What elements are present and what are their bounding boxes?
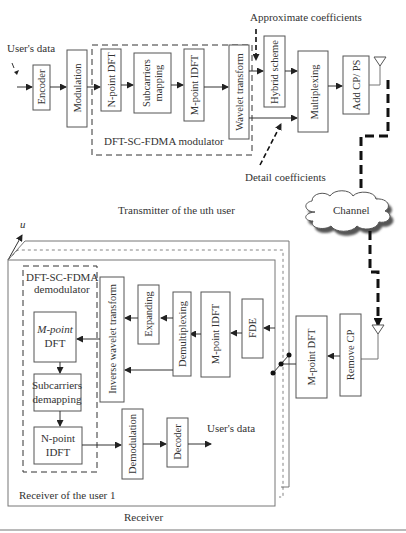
svg-text:N-point DFT: N-point DFT	[106, 52, 117, 108]
rx-m-point-dft-block: M-point DFT	[34, 312, 76, 362]
svg-text:IDFT: IDFT	[46, 446, 71, 458]
svg-text:Encoder: Encoder	[36, 69, 47, 104]
tx-modulator-label: DFT-SC-FDMA modulator	[104, 135, 224, 147]
rx-demodulation-block: Demodulation	[122, 409, 143, 479]
rx-n-point-idft-block: N-point IDFT	[34, 427, 82, 464]
rx-inverse-wavelet-block: Inverse wavelet transform	[100, 277, 124, 402]
rx-demodulator-label-2: demodulator	[34, 283, 90, 295]
svg-text:Inverse wavelet transform: Inverse wavelet transform	[107, 284, 118, 394]
tx-modulation-block: Modulation	[67, 50, 87, 127]
sc-fdma-wavelet-diagram: User's data Encoder Modulation DFT-SC-FD…	[0, 0, 406, 533]
rx-m-point-dft-outer-block: M-point DFT	[296, 316, 327, 398]
rx-antenna-icon	[372, 325, 384, 334]
rx-decoder-block: Decoder	[167, 418, 188, 467]
channel-to-rx-link	[370, 231, 378, 325]
tx-hybrid-scheme-block: Hybrid scheme	[264, 36, 285, 107]
receiver: u Receiver of the user 1 Remove CP M-poi…	[8, 218, 384, 523]
rx-demodulator-label-1: DFT-SC-FDMA	[26, 271, 98, 283]
svg-text:FDE: FDE	[247, 318, 258, 338]
svg-text:Modulation: Modulation	[72, 63, 83, 113]
tx-input-arrowhead-icon	[14, 70, 19, 75]
rx-user1-label: Receiver of the user 1	[19, 489, 116, 501]
svg-text:M-point IDFT: M-point IDFT	[189, 54, 200, 115]
svg-text:Demodulation: Demodulation	[127, 413, 138, 474]
rx-remove-cp-block: Remove CP	[340, 314, 361, 396]
tx-input-dash	[12, 63, 14, 68]
tx-detail-coeff-arrow	[260, 124, 281, 165]
rx-user-index-label: u	[20, 218, 26, 230]
tx-caption: Transmitter of the uth user	[118, 204, 235, 216]
rx-caption: Receiver	[124, 511, 163, 523]
svg-text:Subcarriers: Subcarriers	[141, 59, 152, 107]
rx-expanding-block: Expanding	[138, 285, 159, 344]
tx-n-point-dft-block: N-point DFT	[101, 49, 121, 111]
svg-text:N-point: N-point	[41, 432, 75, 444]
svg-text:M-point: M-point	[36, 323, 73, 335]
rx-subcarriers-demapping-block: Subcarriers demapping	[32, 374, 82, 411]
svg-text:Subcarriers: Subcarriers	[32, 379, 82, 391]
rx-output-label: User's data	[207, 422, 255, 434]
svg-text:demapping: demapping	[33, 393, 82, 405]
tx-input-label: User's data	[7, 42, 55, 54]
svg-text:Remove CP: Remove CP	[345, 330, 356, 381]
svg-text:Add CP/ PS: Add CP/ PS	[351, 59, 362, 110]
rx-fde-block: FDE	[242, 299, 263, 358]
channel-label: Channel	[333, 204, 370, 216]
tx-wavelet-transform-block: Wavelet transform	[229, 45, 249, 139]
svg-text:Multiplexing: Multiplexing	[309, 64, 320, 120]
svg-text:Wavelet transform: Wavelet transform	[234, 53, 245, 131]
tx-antenna-icon	[374, 57, 386, 66]
svg-text:M-point IDFT: M-point IDFT	[210, 303, 221, 364]
svg-text:Demultiplexing: Demultiplexing	[177, 300, 188, 367]
rx-m-point-idft-block: M-point IDFT	[201, 292, 230, 377]
tx-encoder-block: Encoder	[33, 65, 50, 110]
svg-text:Decoder: Decoder	[172, 424, 183, 460]
tx-detail-coeff-label: Detail coefficients	[245, 171, 326, 183]
svg-text:Hybrid scheme: Hybrid scheme	[269, 40, 280, 104]
svg-text:M-point DFT: M-point DFT	[306, 328, 317, 385]
tx-add-cp-ps-block: Add CP/ PS	[343, 56, 369, 114]
transmitter: User's data Encoder Modulation DFT-SC-FD…	[7, 11, 386, 216]
tx-approx-coeff-label: Approximate coefficients	[250, 11, 362, 23]
svg-text:mapping: mapping	[153, 64, 164, 101]
tx-m-point-idft-block: M-point IDFT	[184, 49, 204, 121]
svg-text:DFT: DFT	[45, 337, 66, 349]
rx-demultiplexing-block: Demultiplexing	[173, 292, 191, 376]
svg-text:Expanding: Expanding	[143, 291, 154, 337]
rx-user-index-arrow	[8, 235, 22, 260]
tx-antenna-feed	[369, 63, 380, 85]
tx-subcarriers-mapping-block: Subcarriers mapping	[134, 53, 171, 113]
tx-multiplexing-block: Multiplexing	[298, 51, 328, 132]
